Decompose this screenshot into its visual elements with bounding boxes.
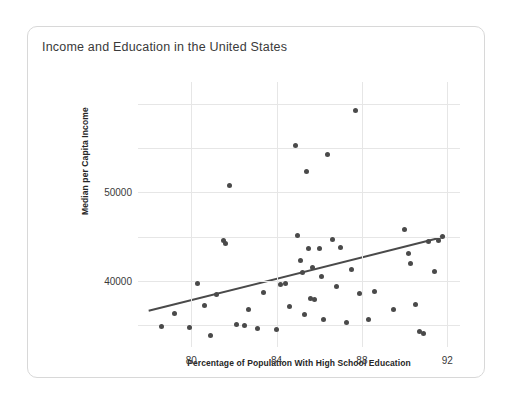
gridline-vertical [277,82,278,347]
gridline-horizontal [138,148,460,149]
scatter-point [283,281,288,286]
x-axis-tick-label: 84 [271,355,282,366]
scatter-plot-area [138,82,460,347]
scatter-point [187,325,192,330]
scatter-point [274,327,279,332]
x-axis-tick-label: 92 [442,355,453,366]
scatter-point [255,326,260,331]
gridline-horizontal [138,192,460,193]
scatter-point [246,307,251,312]
scatter-point [234,322,239,327]
scatter-point [391,307,396,312]
scatter-point [413,302,418,307]
page-title: Income and Education in the United State… [42,40,287,54]
x-axis-tick-label: 80 [186,355,197,366]
trend-line [138,82,460,347]
y-axis-label: Median per Capita Income [80,107,90,215]
scatter-point [298,258,303,263]
gridline-vertical [362,82,363,347]
gridline-horizontal [138,281,460,282]
scatter-point [338,245,343,250]
scatter-point [287,304,292,309]
y-axis-tick-label: 40000 [90,275,132,286]
scatter-point [349,267,354,272]
chart-card: Income and Education in the United State… [27,26,485,378]
scatter-point [366,317,371,322]
scatter-point [317,246,322,251]
scatter-point [426,239,431,244]
scatter-point [302,312,307,317]
gridline-horizontal [138,104,460,105]
scatter-point [330,237,335,242]
scatter-point [334,284,339,289]
x-axis-tick-label: 88 [356,355,367,366]
scatter-point [214,292,219,297]
scatter-point [208,333,213,338]
y-axis-tick-label: 50000 [90,187,132,198]
gridline-vertical [191,82,192,347]
scatter-point [353,108,358,113]
scatter-point [202,303,207,308]
scatter-point [304,169,309,174]
scatter-point [357,291,362,296]
scatter-point [319,274,324,279]
scatter-point [172,311,177,316]
gridline-vertical [447,82,448,347]
